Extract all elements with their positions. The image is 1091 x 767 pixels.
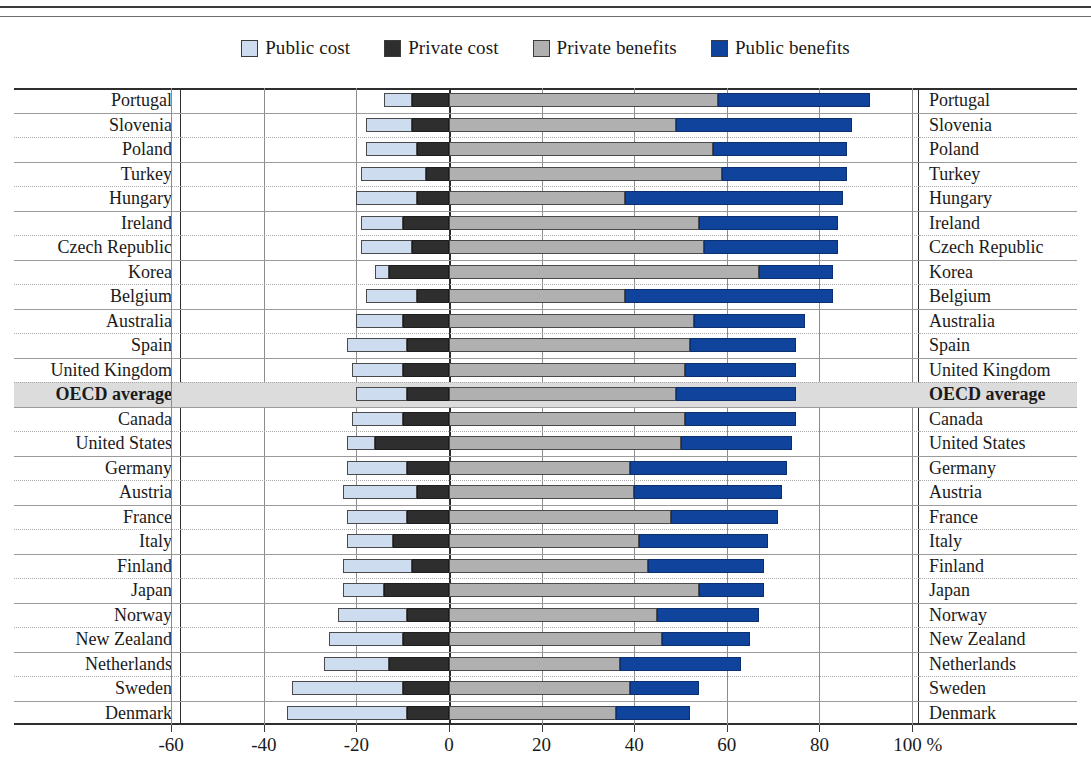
legend-item-private-cost[interactable]: Private cost <box>384 37 498 59</box>
row-separator <box>181 431 919 432</box>
country-label-left: Belgium <box>110 284 172 309</box>
country-label-left: New Zealand <box>76 627 172 652</box>
bar-segment-public-benefits <box>620 657 740 671</box>
bar-segment-private-benefits <box>449 142 713 156</box>
table-row: Turkey <box>14 162 181 187</box>
bar-segment-public-benefits <box>718 93 871 107</box>
bar-segment-private-benefits <box>449 412 685 426</box>
country-label-left: Slovenia <box>109 113 172 138</box>
table-row: Netherlands <box>14 652 181 677</box>
bar-segment-public-benefits <box>759 265 833 279</box>
bar-segment-private-benefits <box>449 191 625 205</box>
row-separator <box>14 578 181 579</box>
table-row: United States <box>919 431 1077 456</box>
row-separator <box>14 309 181 310</box>
row-separator <box>14 407 181 408</box>
country-label-left: Hungary <box>109 186 172 211</box>
country-label-left: Ireland <box>121 211 172 236</box>
bar-segment-public-cost <box>347 436 375 450</box>
bar-segment-public-benefits <box>681 436 792 450</box>
row-separator <box>919 480 1077 481</box>
country-label-right: Korea <box>929 260 973 285</box>
bar-segment-private-benefits <box>449 559 648 573</box>
row-separator <box>181 456 919 457</box>
bar-segment-public-cost <box>361 216 403 230</box>
country-label-right: Hungary <box>929 186 992 211</box>
axis-tick <box>264 725 265 732</box>
bar-segment-public-benefits <box>639 534 769 548</box>
country-label-left: Austria <box>119 480 172 505</box>
stacked-bar <box>181 608 919 622</box>
country-label-right: OECD average <box>929 382 1045 407</box>
stacked-bar <box>181 167 919 181</box>
row-separator <box>181 652 919 653</box>
row-separator <box>919 554 1077 555</box>
bar-segment-private-benefits <box>449 240 704 254</box>
bar-segment-public-cost <box>366 289 417 303</box>
row-separator <box>919 162 1077 163</box>
bar-segment-public-cost <box>347 461 407 475</box>
bar-segment-public-cost <box>347 510 407 524</box>
row-separator <box>181 358 919 359</box>
axis-tick-label: -60 <box>159 734 184 756</box>
row-separator <box>14 529 181 530</box>
bar-segment-public-benefits <box>630 461 787 475</box>
bar-segment-private-cost <box>389 265 449 279</box>
bar-segment-private-benefits <box>449 583 699 597</box>
row-separator <box>14 260 181 261</box>
table-row: Denmark <box>14 701 181 726</box>
table-row: Italy <box>14 529 181 554</box>
bar-segment-private-benefits <box>449 681 630 695</box>
row-separator <box>919 456 1077 457</box>
row-separator <box>181 211 919 212</box>
axis-tick <box>542 725 543 732</box>
bar-segment-public-benefits <box>616 706 690 720</box>
bar-segment-private-cost <box>426 167 449 181</box>
row-separator <box>14 480 181 481</box>
row-separator <box>919 284 1077 285</box>
legend-item-public-benefits[interactable]: Public benefits <box>711 37 850 59</box>
legend-swatch-icon-public-benefits <box>711 40 728 57</box>
bar-segment-public-benefits <box>634 485 782 499</box>
bar-segment-public-cost <box>347 338 407 352</box>
table-row: Slovenia <box>919 113 1077 138</box>
row-separator <box>181 309 919 310</box>
bar-segment-private-benefits <box>449 338 690 352</box>
country-label-right: Germany <box>929 456 996 481</box>
table-row: Belgium <box>919 284 1077 309</box>
table-row: Austria <box>919 480 1077 505</box>
country-label-left: Norway <box>114 603 172 628</box>
bar-segment-private-cost <box>403 412 449 426</box>
bar-segment-public-benefits <box>685 363 796 377</box>
row-separator <box>181 235 919 236</box>
table-row: Japan <box>14 578 181 603</box>
legend-item-public-cost[interactable]: Public cost <box>241 37 350 59</box>
top-border-rule-thick <box>0 6 1091 8</box>
country-label-left: United Kingdom <box>51 358 173 383</box>
country-label-left: Japan <box>131 578 172 603</box>
row-separator <box>181 284 919 285</box>
row-separator <box>14 113 181 114</box>
table-row: Ireland <box>14 211 181 236</box>
axis-tick-label: -40 <box>251 734 276 756</box>
row-separator <box>14 333 181 334</box>
bar-segment-private-cost <box>403 216 449 230</box>
row-separator <box>181 113 919 114</box>
axis-tick-label: 0 <box>444 734 454 756</box>
axis-tick <box>449 725 450 732</box>
top-border-rule-thin <box>0 16 1091 17</box>
table-row: Sweden <box>919 676 1077 701</box>
country-label-right: Norway <box>929 603 987 628</box>
table-row: Hungary <box>919 186 1077 211</box>
bar-segment-public-benefits <box>625 191 843 205</box>
row-separator <box>14 603 181 604</box>
bar-segment-public-cost <box>343 583 385 597</box>
bar-segment-private-cost <box>417 191 449 205</box>
legend-item-private-benefits[interactable]: Private benefits <box>533 37 677 59</box>
country-label-left: OECD average <box>56 382 172 407</box>
axis-tick-label: 80 <box>810 734 829 756</box>
bar-segment-public-benefits <box>699 216 838 230</box>
axis-tick-label: 40 <box>625 734 644 756</box>
country-label-right: Canada <box>929 407 983 432</box>
row-separator <box>14 652 181 653</box>
